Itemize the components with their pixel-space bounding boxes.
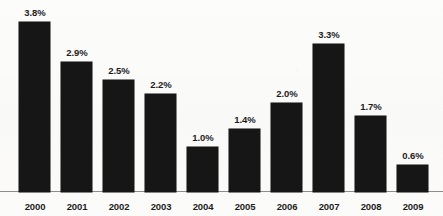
bar — [19, 22, 50, 192]
bar-value-label: 2.2% — [140, 79, 182, 92]
bar-value-label: 3.3% — [308, 29, 350, 42]
bar — [103, 80, 134, 192]
bar-value-label: 0.6% — [392, 150, 434, 163]
x-tick-label: 2006 — [264, 201, 310, 212]
bar-group: 0.6% 2009 — [392, 0, 434, 216]
x-tick-label: 2004 — [180, 201, 226, 212]
bar-group: 2.9% 2001 — [56, 0, 98, 216]
bar-group: 3.3% 2007 — [308, 0, 350, 216]
x-tick-label: 2000 — [12, 201, 58, 212]
bar-group: 2.0% 2006 — [266, 0, 308, 216]
bar-group: 2.5% 2002 — [98, 0, 140, 216]
bar-value-label: 2.0% — [266, 88, 308, 101]
bar-value-label: 1.0% — [182, 132, 224, 145]
x-tick-label: 2008 — [348, 201, 394, 212]
bar — [355, 116, 386, 192]
x-tick-label: 2003 — [138, 201, 184, 212]
x-tick-label: 2005 — [222, 201, 268, 212]
bar-value-label: 2.5% — [98, 65, 140, 78]
x-tick-label: 2009 — [390, 201, 436, 212]
bar-group: 1.7% 2008 — [350, 0, 392, 216]
bar-value-label: 1.4% — [224, 114, 266, 127]
x-tick-label: 2007 — [306, 201, 352, 212]
bar — [397, 165, 428, 192]
bar-group: 3.8% 2000 — [14, 0, 56, 216]
bar — [313, 44, 344, 192]
bar-value-label: 3.8% — [14, 7, 56, 20]
bar-group: 1.0% 2004 — [182, 0, 224, 216]
bar — [271, 103, 302, 192]
x-tick-label: 2001 — [54, 201, 100, 212]
bar — [145, 94, 176, 192]
bar-value-label: 2.9% — [56, 47, 98, 60]
bar — [187, 147, 218, 192]
bar-group: 1.4% 2005 — [224, 0, 266, 216]
bar — [229, 129, 260, 192]
plot-area: 3.8% 2000 2.9% 2001 2.5% 2002 2.2% 2003 … — [0, 0, 443, 216]
x-tick-label: 2002 — [96, 201, 142, 212]
bar-value-label: 1.7% — [350, 101, 392, 114]
bar-group: 2.2% 2003 — [140, 0, 182, 216]
bar — [61, 62, 92, 192]
bar-chart: 3.8% 2000 2.9% 2001 2.5% 2002 2.2% 2003 … — [0, 0, 443, 216]
